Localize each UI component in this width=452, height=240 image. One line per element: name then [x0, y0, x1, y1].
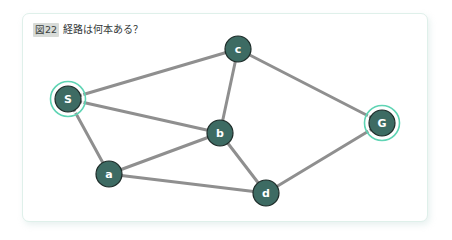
graph-node-d[interactable]: d — [253, 180, 279, 206]
node-label-d: d — [262, 187, 270, 200]
node-label-b: b — [216, 127, 224, 140]
graph-edge-a-d — [109, 174, 266, 193]
graph-edge-S-b — [68, 99, 220, 133]
graph-edge-c-G — [238, 49, 382, 123]
graph-nodes: ScbGad — [51, 36, 400, 206]
graph-svg: ScbGad — [23, 14, 429, 223]
node-label-G: G — [377, 117, 386, 130]
node-label-S: S — [64, 93, 72, 106]
graph-node-G[interactable]: G — [365, 106, 400, 141]
node-label-a: a — [105, 168, 112, 181]
graph-edge-S-c — [68, 49, 238, 99]
screenshot-root: 図22 経路は何本ある？ ScbGad — [0, 0, 452, 240]
figure-card: 図22 経路は何本ある？ ScbGad — [22, 13, 428, 222]
node-label-c: c — [235, 43, 242, 56]
graph-edge-d-G — [266, 123, 382, 193]
graph-node-b[interactable]: b — [207, 120, 233, 146]
graph-node-S[interactable]: S — [51, 82, 86, 117]
graph-canvas: ScbGad — [23, 14, 429, 223]
graph-node-a[interactable]: a — [96, 161, 122, 187]
graph-edge-a-b — [109, 133, 220, 174]
graph-node-c[interactable]: c — [225, 36, 251, 62]
